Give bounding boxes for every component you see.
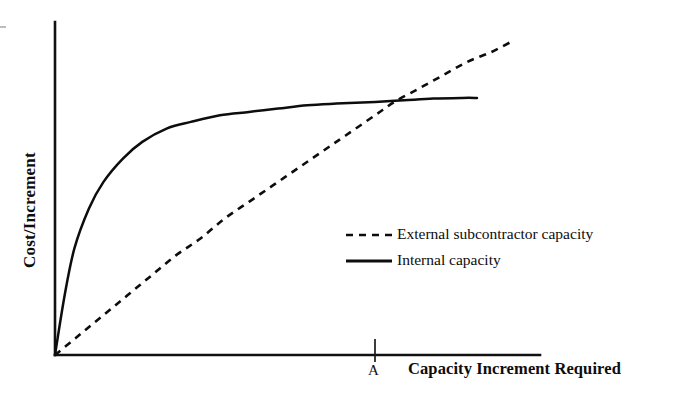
legend-swatch-solid-icon bbox=[345, 254, 393, 268]
series-external-subcontractor-capacity bbox=[55, 42, 511, 355]
legend-swatch-dashed-icon bbox=[345, 228, 393, 242]
plot-area bbox=[0, 0, 681, 406]
y-axis-label: Cost/Increment bbox=[20, 8, 40, 268]
x-axis-tick-label-a: A bbox=[368, 362, 379, 379]
legend-label-external: External subcontractor capacity bbox=[397, 224, 593, 244]
x-axis-label: Capacity Increment Required bbox=[408, 359, 621, 379]
legend-item-internal: Internal capacity bbox=[345, 250, 645, 276]
legend-label-internal: Internal capacity bbox=[397, 250, 501, 270]
chart-figure: Cost/Increment Capacity Increment Requir… bbox=[0, 0, 681, 406]
legend: External subcontractor capacity Internal… bbox=[345, 224, 645, 276]
legend-item-external: External subcontractor capacity bbox=[345, 224, 645, 250]
